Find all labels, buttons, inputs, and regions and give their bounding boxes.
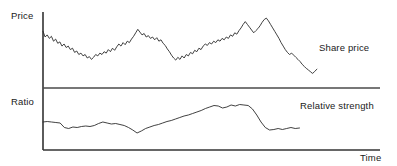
share-price-line	[43, 18, 317, 73]
y-axis-label-price: Price	[11, 10, 33, 21]
y-axis-label-ratio: Ratio	[11, 96, 34, 107]
series-label-share-price: Share price	[319, 42, 369, 53]
axes-group	[43, 12, 380, 150]
series-group	[43, 18, 317, 133]
chart-canvas	[0, 0, 397, 166]
stock-chart-figure: Price Ratio Time Share price Relative st…	[0, 0, 397, 166]
x-axis-label-time: Time	[360, 152, 381, 163]
relative-strength-line	[43, 105, 300, 134]
series-label-relative-strength: Relative strength	[300, 100, 374, 111]
